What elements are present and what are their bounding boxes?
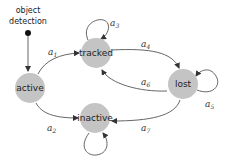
edge-label-a6: a6 [141, 77, 150, 88]
state-active: active [15, 73, 45, 103]
edge-a2 [36, 103, 78, 118]
state-label-lost: lost [175, 79, 192, 89]
edge-label-a7: a7 [141, 123, 150, 134]
edge-a7 [112, 100, 180, 121]
state-label-tracked: tracked [79, 48, 113, 58]
state-tracked: tracked [79, 38, 113, 68]
edge-a5 [196, 70, 218, 92]
edge-a4 [112, 50, 179, 68]
edge-a1 [38, 53, 79, 74]
edge-label-a1: a1 [48, 47, 57, 58]
edge-inactive-loop [84, 133, 107, 155]
edge-label-a3: a3 [110, 18, 119, 29]
edge-label-a5: a5 [205, 99, 214, 110]
state-diagram: object detection a1 a2 a3 a4 a5 a6 a7 ac… [0, 0, 233, 165]
edge-label-a2: a2 [47, 123, 56, 134]
edge-a6 [102, 70, 167, 91]
state-inactive: inactive [77, 103, 113, 133]
edge-a3 [86, 20, 108, 40]
state-label-inactive: inactive [77, 113, 113, 123]
state-label-active: active [16, 83, 44, 93]
start-label-line1: object [16, 6, 41, 15]
start-dot [25, 30, 31, 36]
start-label-line2: detection [9, 17, 47, 26]
edge-label-a4: a4 [141, 39, 150, 50]
state-lost: lost [168, 69, 198, 99]
